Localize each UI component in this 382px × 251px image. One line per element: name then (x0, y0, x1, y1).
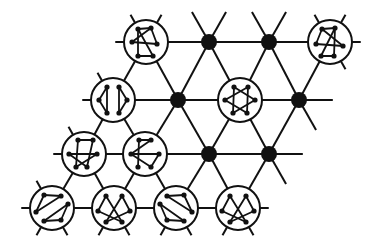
lattice-dot (291, 92, 307, 108)
graph-vertex (135, 164, 140, 169)
graph-node (154, 186, 198, 230)
graph-vertex (41, 218, 46, 223)
graph-vertex (231, 84, 236, 89)
graph-node (62, 132, 106, 176)
lattice-diagram (0, 0, 382, 251)
graph-vertex (119, 219, 124, 224)
graph-vertex (75, 137, 80, 142)
graph-vertex (332, 25, 337, 30)
lattice-dot (201, 146, 217, 162)
graph-vertex (103, 193, 108, 198)
graph-vertex (230, 110, 235, 115)
lattice-dot (261, 34, 277, 50)
graph-node (308, 20, 352, 64)
graph-node (91, 78, 135, 122)
triangular-lattice-svg (0, 0, 382, 251)
graph-vertex (164, 217, 169, 222)
graph-node (92, 186, 136, 230)
lattice-edge (269, 100, 299, 154)
graph-vertex (252, 97, 257, 102)
graph-vertex (222, 97, 227, 102)
graph-vertex (331, 53, 336, 58)
graph-vertex (135, 26, 140, 31)
graph-vertex (319, 26, 324, 31)
graph-vertex (227, 219, 232, 224)
solid-dot-icon (201, 34, 217, 50)
graph-vertex (219, 208, 224, 213)
graph-circle (154, 186, 198, 230)
graph-vertex (104, 84, 109, 89)
graph-vertex (103, 219, 108, 224)
graph-node (30, 186, 74, 230)
graph-vertex (313, 41, 318, 46)
graph-vertex (119, 193, 124, 198)
graph-vertex (65, 201, 70, 206)
graph-vertex (41, 192, 46, 197)
graph-node (216, 186, 260, 230)
lattice-dot (201, 34, 217, 50)
graph-node (218, 78, 262, 122)
graph-vertex (156, 151, 161, 156)
graph-circle (30, 186, 74, 230)
graph-vertex (135, 53, 140, 58)
graph-vertex (251, 208, 256, 213)
graph-vertex (73, 164, 78, 169)
solid-dot-icon (261, 34, 277, 50)
graph-vertex (318, 53, 323, 58)
lattice-dot (170, 92, 186, 108)
graph-vertex (90, 137, 95, 142)
graph-vertex (136, 137, 141, 142)
graph-vertex (96, 97, 101, 102)
graph-vertex (243, 219, 248, 224)
solid-dot-icon (261, 146, 277, 162)
graph-vertex (128, 151, 133, 156)
graph-vertex (58, 193, 63, 198)
graph-vertex (340, 43, 345, 48)
graph-edge (334, 28, 335, 56)
graph-edge (247, 87, 248, 113)
graph-vertex (150, 53, 155, 58)
graph-vertex (189, 209, 194, 214)
graph-vertex (116, 110, 121, 115)
graph-vertex (148, 25, 153, 30)
graph-vertex (164, 193, 169, 198)
lattice-nodes (30, 20, 352, 230)
graph-vertex (244, 110, 249, 115)
graph-node (123, 132, 167, 176)
graph-vertex (66, 151, 71, 156)
lattice-edge (178, 42, 209, 100)
graph-edge (233, 87, 234, 113)
lattice-edge (269, 42, 299, 100)
graph-vertex (243, 193, 248, 198)
graph-vertex (148, 137, 153, 142)
graph-vertex (227, 193, 232, 198)
graph-node (124, 20, 168, 64)
graph-vertex (104, 110, 109, 115)
lattice-dot (261, 146, 277, 162)
graph-vertex (127, 208, 132, 213)
graph-vertex (33, 209, 38, 214)
graph-vertex (181, 218, 186, 223)
solid-dot-icon (291, 92, 307, 108)
graph-vertex (129, 39, 134, 44)
lattice-edge (178, 100, 209, 154)
graph-vertex (148, 164, 153, 169)
graph-vertex (84, 164, 89, 169)
graph-vertex (94, 151, 99, 156)
solid-dot-icon (170, 92, 186, 108)
solid-dot-icon (201, 146, 217, 162)
graph-vertex (181, 192, 186, 197)
graph-vertex (245, 84, 250, 89)
graph-vertex (154, 41, 159, 46)
graph-vertex (157, 201, 162, 206)
graph-vertex (124, 97, 129, 102)
graph-vertex (95, 208, 100, 213)
graph-vertex (58, 217, 63, 222)
graph-vertex (116, 84, 121, 89)
